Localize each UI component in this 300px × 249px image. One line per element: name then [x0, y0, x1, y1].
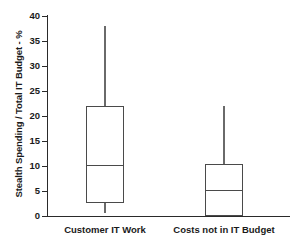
- category-label-1: Costs not in IT Budget: [144, 224, 300, 236]
- y-tick-mark: [42, 166, 47, 167]
- y-tick-label: 10: [0, 161, 40, 171]
- y-tick-mark: [42, 66, 47, 67]
- y-tick-label: 15: [0, 136, 40, 146]
- median-line: [86, 165, 124, 166]
- y-tick-label: 5: [0, 186, 40, 196]
- upper-whisker: [104, 26, 105, 106]
- y-tick-mark: [42, 16, 47, 17]
- y-tick-mark: [42, 141, 47, 142]
- y-tick-label: 35: [0, 36, 40, 46]
- y-axis-line: [47, 15, 48, 217]
- y-tick-label: 30: [0, 61, 40, 71]
- y-tick-mark: [42, 191, 47, 192]
- y-tick-label: 20: [0, 111, 40, 121]
- y-tick-label: 40: [0, 11, 40, 21]
- plot-area: 4035302520151050: [0, 0, 300, 249]
- y-tick-mark: [42, 91, 47, 92]
- y-tick-mark: [42, 41, 47, 42]
- box-iqr-rect: [86, 106, 124, 203]
- x-axis-line: [47, 216, 290, 217]
- y-tick-mark: [42, 216, 47, 217]
- median-line: [205, 190, 243, 191]
- y-tick-mark: [42, 116, 47, 117]
- lower-whisker: [104, 203, 105, 213]
- y-tick-label: 0: [0, 211, 40, 221]
- box-plot-chart: Stealth Spending / Total IT Budget - % 4…: [0, 0, 300, 249]
- y-tick-label: 25: [0, 86, 40, 96]
- upper-whisker: [223, 106, 224, 164]
